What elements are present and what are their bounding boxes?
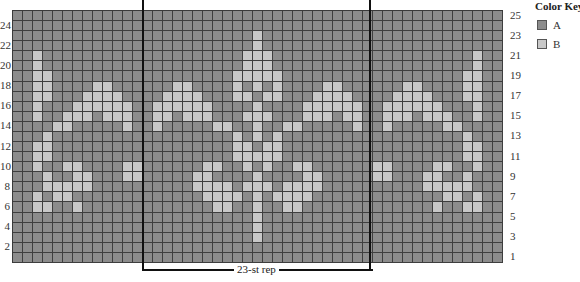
chart-cell: [483, 223, 493, 233]
chart-cell: [113, 172, 123, 182]
chart-cell: [23, 182, 33, 192]
chart-cell: [383, 11, 393, 21]
chart-cell: [53, 243, 63, 253]
chart-cell: [43, 253, 53, 263]
chart-cell: [43, 202, 53, 212]
chart-cell: [493, 82, 503, 92]
chart-cell: [493, 112, 503, 122]
chart-cell: [113, 182, 123, 192]
chart-cell: [73, 162, 83, 172]
chart-cell: [483, 192, 493, 202]
chart-cell: [463, 172, 473, 182]
chart-cell: [413, 233, 423, 243]
chart-cell: [443, 102, 453, 112]
chart-cell: [493, 61, 503, 71]
chart-cell: [83, 162, 93, 172]
chart-cell: [413, 223, 423, 233]
chart-cell: [393, 202, 403, 212]
chart-cell: [13, 31, 23, 41]
row-number-left: 8: [0, 181, 10, 192]
chart-cell: [123, 41, 133, 51]
chart-cell: [403, 61, 413, 71]
chart-cell: [413, 142, 423, 152]
chart-cell: [463, 82, 473, 92]
row-number-left: 20: [0, 60, 10, 71]
chart-cell: [483, 61, 493, 71]
chart-cell: [13, 122, 23, 132]
chart-cell: [53, 213, 63, 223]
chart-cell: [73, 92, 83, 102]
chart-cell: [13, 152, 23, 162]
chart-cell: [463, 152, 473, 162]
chart-cell: [443, 233, 453, 243]
chart-cell: [113, 11, 123, 21]
chart-cell: [93, 142, 103, 152]
chart-cell: [93, 132, 103, 142]
chart-cell: [43, 223, 53, 233]
chart-cell: [403, 11, 413, 21]
chart-cell: [73, 243, 83, 253]
chart-cell: [103, 31, 113, 41]
chart-cell: [493, 41, 503, 51]
chart-cell: [463, 253, 473, 263]
chart-cell: [43, 21, 53, 31]
chart-cell: [443, 51, 453, 61]
chart-cell: [63, 31, 73, 41]
chart-cell: [483, 233, 493, 243]
chart-cell: [383, 61, 393, 71]
chart-cell: [123, 71, 133, 81]
row-number-right: 21: [510, 50, 521, 61]
row-number-right: 23: [510, 30, 521, 41]
chart-cell: [53, 11, 63, 21]
chart-cell: [463, 112, 473, 122]
color-key: Color Key A B: [535, 0, 580, 50]
chart-cell: [393, 112, 403, 122]
chart-cell: [423, 92, 433, 102]
chart-cell: [73, 223, 83, 233]
chart-cell: [463, 92, 473, 102]
chart-cell: [93, 102, 103, 112]
chart-cell: [473, 11, 483, 21]
chart-cell: [413, 51, 423, 61]
chart-cell: [73, 21, 83, 31]
chart-cell: [453, 202, 463, 212]
chart-cell: [63, 71, 73, 81]
chart-cell: [113, 61, 123, 71]
chart-cell: [83, 182, 93, 192]
chart-cell: [73, 11, 83, 21]
chart-cell: [13, 41, 23, 51]
chart-cell: [413, 182, 423, 192]
chart-cell: [463, 11, 473, 21]
chart-cell: [83, 233, 93, 243]
chart-cell: [423, 172, 433, 182]
chart-cell: [63, 41, 73, 51]
chart-cell: [463, 71, 473, 81]
chart-cell: [423, 11, 433, 21]
chart-cell: [493, 172, 503, 182]
chart-cell: [33, 192, 43, 202]
chart-cell: [383, 122, 393, 132]
chart-cell: [483, 41, 493, 51]
chart-cell: [103, 213, 113, 223]
chart-cell: [23, 192, 33, 202]
chart-cell: [103, 243, 113, 253]
chart-cell: [23, 213, 33, 223]
chart-cell: [433, 122, 443, 132]
chart-cell: [43, 192, 53, 202]
chart-cell: [13, 243, 23, 253]
swatch-b: [537, 39, 547, 49]
chart-cell: [383, 223, 393, 233]
chart-cell: [63, 11, 73, 21]
chart-cell: [373, 51, 383, 61]
chart-cell: [443, 142, 453, 152]
chart-cell: [423, 31, 433, 41]
chart-cell: [403, 223, 413, 233]
chart-cell: [413, 172, 423, 182]
chart-cell: [383, 243, 393, 253]
chart-cell: [43, 112, 53, 122]
chart-cell: [453, 51, 463, 61]
chart-cell: [23, 11, 33, 21]
chart-cell: [373, 243, 383, 253]
chart-cell: [483, 51, 493, 61]
chart-cell: [83, 92, 93, 102]
